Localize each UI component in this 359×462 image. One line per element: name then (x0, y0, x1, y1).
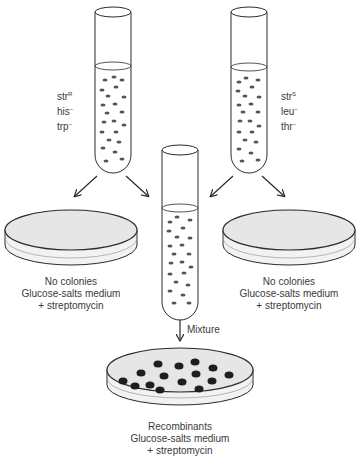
bacteria-cells-left (100, 76, 127, 163)
left-plate-caption: No colonies Glucose-salts medium + strep… (1, 276, 141, 312)
left-str-allele: strR (57, 88, 73, 103)
right-petri-dish (223, 210, 355, 265)
right-plate-antibiotic: + streptomycin (219, 300, 359, 312)
bacteria-cells-right (236, 77, 262, 163)
left-petri-dish (5, 210, 137, 265)
bottom-plate-antibiotic: + streptomycin (110, 445, 250, 457)
right-plate-medium: Glucose-salts medium (219, 288, 359, 300)
arrow-left-tube-to-left-plate (75, 176, 97, 196)
bottom-plate-caption: Recombinants Glucose-salts medium + stre… (110, 421, 250, 457)
mixture-arrow-label: Mixture (187, 324, 220, 336)
right-str-allele: strS (281, 88, 298, 103)
arrow-left-tube-to-mixture (126, 176, 148, 196)
right-plate-caption: No colonies Glucose-salts medium + strep… (219, 276, 359, 312)
right-marker-1: leu− (281, 103, 298, 118)
arrow-right-tube-to-mixture (211, 176, 233, 196)
right-strain-genotype: strS leu− thr− (281, 88, 298, 133)
left-test-tube (95, 7, 131, 173)
bottom-plate-result: Recombinants (110, 421, 250, 433)
left-marker-2: trp− (57, 118, 73, 133)
bottom-plate-medium: Glucose-salts medium (110, 433, 250, 445)
mixture-test-tube (162, 145, 198, 320)
right-plate-result: No colonies (219, 276, 359, 288)
left-marker-1: his− (57, 103, 73, 118)
right-marker-2: thr− (281, 118, 298, 133)
left-plate-medium: Glucose-salts medium (1, 288, 141, 300)
recombinants-petri-dish (107, 348, 253, 405)
arrow-right-tube-to-right-plate (262, 176, 284, 196)
bacteria-cells-mixture (167, 216, 194, 305)
left-plate-antibiotic: + streptomycin (1, 300, 141, 312)
right-test-tube (231, 7, 267, 173)
left-strain-genotype: strR his− trp− (57, 88, 73, 133)
left-plate-result: No colonies (1, 276, 141, 288)
diagram-canvas (0, 0, 359, 462)
